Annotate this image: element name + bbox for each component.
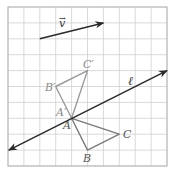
geometry-diagram xyxy=(0,0,172,169)
grid xyxy=(8,7,167,166)
vector-arrow-overline-icon: → xyxy=(59,13,66,24)
line-l-label: ℓ xyxy=(128,76,133,87)
label-c: C xyxy=(123,129,131,140)
label-a-prime: A′ xyxy=(56,107,66,118)
label-b: B xyxy=(83,153,91,164)
label-b-prime: B′ xyxy=(45,82,56,93)
label-a: A xyxy=(63,120,71,131)
label-c-prime: C′ xyxy=(83,59,94,70)
vector-v-label: → v xyxy=(59,18,65,29)
